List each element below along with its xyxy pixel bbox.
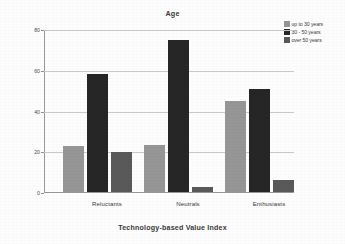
y-tick-label-20: 20 [30, 149, 40, 155]
x-category-label-enthusiasts: Enthusiasts [239, 200, 299, 207]
gridline-80 [44, 30, 294, 31]
x-category-label-neutrals: Neutrals [158, 200, 218, 207]
tick-mark-20 [41, 152, 44, 153]
bar-reluctants-up-to-30 [63, 146, 84, 192]
bar-reluctants-30-50 [87, 74, 108, 192]
y-tick-label-60: 60 [30, 68, 40, 74]
bar-reluctants-over-50 [111, 152, 132, 192]
x-axis-title: Technology-based Value Index [0, 224, 345, 232]
bar-neutrals-up-to-30 [144, 145, 165, 192]
bar-enthusiasts-up-to-30 [225, 101, 246, 192]
legend-label-up-to-30: up to 30 years [292, 21, 324, 27]
legend-label-over-50: over 50 years [292, 37, 322, 43]
bar-chart-figure: Age up to 30 years 30 - 50 years over 50… [0, 0, 345, 244]
bar-enthusiasts-30-50 [249, 89, 270, 192]
chart-title: Age [0, 9, 345, 18]
tick-mark-0 [41, 193, 44, 194]
legend-swatch-up-to-30 [284, 21, 290, 27]
bar-enthusiasts-over-50 [273, 180, 294, 192]
legend-label-30-50: 30 - 50 years [292, 29, 321, 35]
tick-mark-80 [41, 30, 44, 31]
y-tick-label-0: 0 [30, 190, 40, 196]
x-axis-line [44, 192, 294, 193]
y-tick-label-80: 80 [30, 27, 40, 33]
tick-mark-40 [41, 112, 44, 113]
tick-mark-60 [41, 71, 44, 72]
x-category-label-reluctants: Reluctants [77, 200, 137, 207]
legend-item: up to 30 years [284, 20, 342, 28]
bar-neutrals-30-50 [168, 40, 189, 192]
y-tick-label-40: 40 [30, 109, 40, 115]
bar-neutrals-over-50 [192, 187, 213, 192]
plot-area: 80 60 40 20 0 [44, 30, 294, 193]
